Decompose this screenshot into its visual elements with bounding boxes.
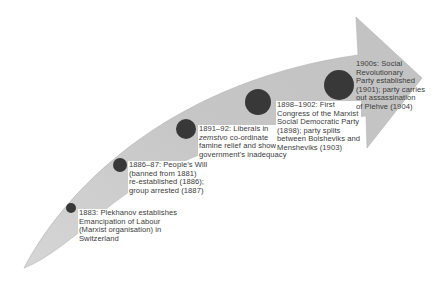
- event-marker-1886: [113, 158, 127, 172]
- event-text-line: of Plehve (1904): [356, 103, 425, 112]
- event-label-1900s: 1900s: Social Revolutionary Party establ…: [355, 60, 426, 112]
- timeline-diagram: 1883: Plekhanov establishes Emancipation…: [0, 0, 441, 285]
- event-label-1883: 1883: Plekhanov establishes Emancipation…: [78, 209, 178, 243]
- event-marker-1883: [66, 203, 76, 213]
- event-marker-1891: [176, 119, 196, 139]
- event-text-line: government’s inadequacy: [199, 151, 287, 160]
- event-label-1898: 1898–1902: First Congress of the Marxist…: [276, 101, 361, 153]
- event-text-line: Switzerland: [79, 235, 177, 244]
- event-label-1886: 1886–87: People’s Will (banned from 1881…: [128, 161, 208, 195]
- event-text-line: Mensheviks (1903): [277, 144, 360, 153]
- event-text-line: group arrested (1887): [129, 187, 207, 196]
- event-label-1891: 1891–92: Liberals in zemstvo co-ordinate…: [198, 125, 288, 159]
- event-marker-1900s: [324, 70, 354, 100]
- event-marker-1898: [245, 89, 271, 115]
